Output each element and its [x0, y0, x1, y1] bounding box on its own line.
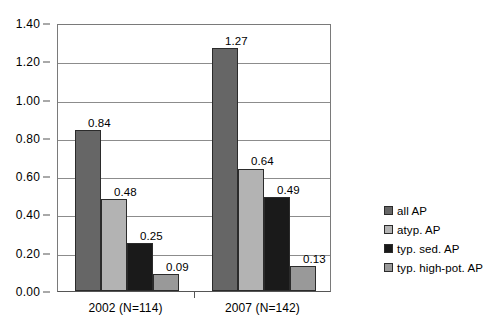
bar-value-label: 0.48 — [114, 187, 137, 199]
y-tick-mark — [43, 24, 50, 25]
bar-value-label: 0.09 — [166, 262, 189, 274]
bar-value-label: 0.64 — [251, 156, 274, 168]
bar — [264, 197, 290, 291]
bar — [75, 130, 101, 291]
plot-area: 0.840.480.250.091.270.640.490.13 — [57, 24, 331, 292]
y-tick-label: 0.20 — [16, 248, 40, 260]
y-tick-label: 0.60 — [16, 171, 40, 183]
bar — [212, 48, 238, 291]
legend-label: typ. high-pot. AP — [397, 262, 483, 274]
y-tick-label: 0.40 — [16, 209, 40, 221]
y-tick-label: 0.80 — [16, 133, 40, 145]
legend-label: atyp. AP — [397, 224, 441, 236]
bar-value-label: 1.27 — [225, 36, 248, 48]
y-tick-label: 1.20 — [16, 56, 40, 68]
legend-label: all AP — [397, 205, 427, 217]
bar-value-label: 0.13 — [303, 254, 326, 266]
y-tick-mark — [43, 292, 50, 293]
legend-item: all AP — [384, 201, 483, 220]
chart-legend: all APatyp. APtyp. sed. APtyp. high-pot.… — [384, 201, 483, 277]
legend-item: typ. high-pot. AP — [384, 258, 483, 277]
y-tick-mark — [43, 138, 50, 139]
legend-swatch-icon — [384, 263, 393, 272]
y-tick-label: 1.40 — [16, 18, 40, 30]
y-tick-mark — [43, 62, 50, 63]
y-tick-label: 1.00 — [16, 95, 40, 107]
legend-swatch-icon — [384, 225, 393, 234]
y-tick-mark — [43, 215, 50, 216]
y-tick-mark — [43, 177, 50, 178]
x-tick-mark — [194, 292, 195, 298]
legend-swatch-icon — [384, 206, 393, 215]
y-axis: 0.000.200.400.600.801.001.201.40 — [0, 24, 50, 292]
bar — [127, 243, 153, 291]
x-category-label: 2007 (N=142) — [225, 302, 300, 315]
bar-value-label: 0.25 — [140, 231, 163, 243]
bar — [238, 169, 264, 292]
legend-item: typ. sed. AP — [384, 239, 483, 258]
legend-label: typ. sed. AP — [397, 243, 460, 255]
legend-item: atyp. AP — [384, 220, 483, 239]
x-category-label: 2002 (N=114) — [88, 302, 162, 315]
bar — [101, 199, 127, 291]
y-tick-label: 0.00 — [16, 286, 40, 298]
bar-value-label: 0.49 — [277, 185, 300, 197]
y-tick-mark — [43, 100, 50, 101]
legend-swatch-icon — [384, 244, 393, 253]
y-tick-mark — [43, 253, 50, 254]
bar-value-label: 0.84 — [88, 118, 111, 130]
bar — [290, 266, 316, 291]
bar-layer: 0.840.480.250.091.270.640.490.13 — [58, 25, 330, 291]
bar — [153, 274, 179, 291]
